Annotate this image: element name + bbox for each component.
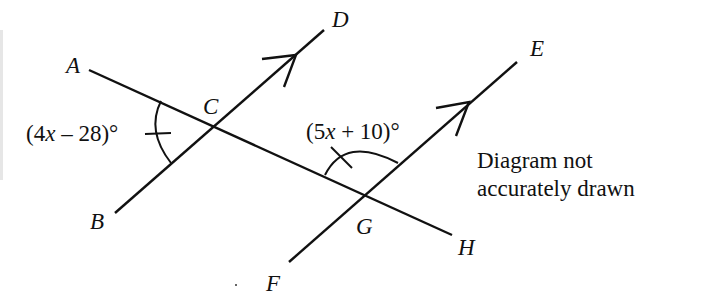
point-label-B: B (90, 210, 104, 233)
note-line-2: accurately drawn (477, 175, 635, 203)
angle-arc-C (155, 101, 171, 163)
angle-G-prefix: (5 (306, 119, 325, 144)
note-line-1: Diagram not (477, 147, 635, 175)
point-label-E: E (530, 37, 544, 60)
point-label-A: A (66, 54, 80, 77)
angle-C-prefix: (4 (26, 121, 45, 146)
point-label-H: H (458, 236, 475, 259)
angle-G-suffix: + 10)° (335, 119, 399, 144)
point-label-C: C (203, 95, 218, 118)
angle-arc-G (325, 151, 398, 175)
stray-dot (235, 284, 237, 286)
angle-tick-G (331, 147, 352, 168)
point-label-D: D (332, 8, 349, 31)
angle-G-variable: x (325, 119, 335, 144)
geometry-diagram: A B C D E F G H (4x – 28)° (5x + 10)° Di… (0, 0, 707, 307)
angle-C-variable: x (45, 121, 55, 146)
line-BD (115, 30, 324, 213)
angle-label-C: (4x – 28)° (26, 122, 118, 145)
angle-label-G: (5x + 10)° (306, 120, 400, 143)
diagram-note: Diagram not accurately drawn (477, 147, 635, 203)
point-label-G: G (356, 215, 373, 238)
angle-tick-C (145, 133, 171, 134)
point-label-F: F (266, 272, 280, 295)
line-AH (89, 70, 452, 235)
angle-C-suffix: – 28)° (55, 121, 118, 146)
